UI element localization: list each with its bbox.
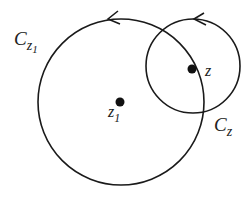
point-z1 <box>116 98 125 107</box>
label-point-z1: z1 <box>107 103 120 125</box>
point-z <box>188 65 197 74</box>
label-c-z1: Cz1 <box>14 28 38 55</box>
diagram-canvas: Cz1 z z1 Cz <box>0 0 252 197</box>
arrow-c-z1-icon <box>108 11 120 24</box>
label-point-z: z <box>204 62 212 79</box>
label-c-z: Cz <box>214 114 233 139</box>
